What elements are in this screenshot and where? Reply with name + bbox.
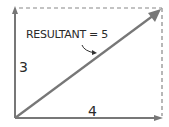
vertical-label: 3 bbox=[19, 59, 28, 75]
resultant-label: RESULTANT = 5 bbox=[26, 28, 108, 41]
resultant-arrowhead-icon bbox=[148, 9, 161, 22]
pointer-arrowhead-icon bbox=[92, 50, 97, 55]
horizontal-label: 4 bbox=[88, 103, 97, 119]
vertical-arrowhead-icon bbox=[12, 6, 18, 14]
vector-diagram: RESULTANT = 5 3 4 bbox=[0, 0, 169, 127]
